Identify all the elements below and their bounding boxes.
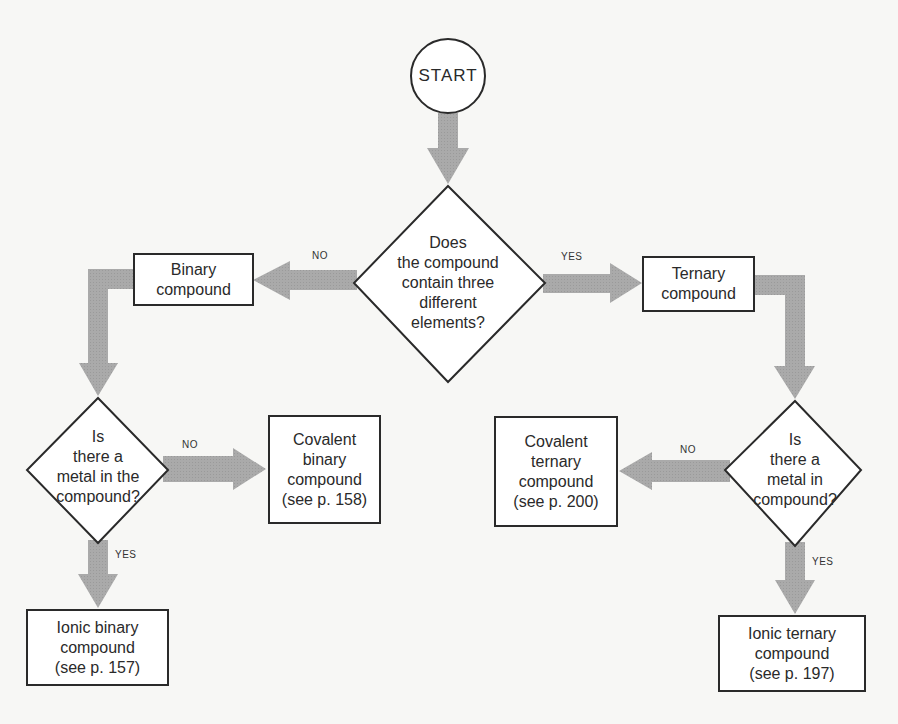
decision-text-line: Does: [429, 233, 466, 253]
edge-label-yes-main: YES: [561, 251, 583, 262]
decision-text-line: compound?: [753, 490, 837, 510]
arrow-yes-to-ionic-binary: [78, 540, 118, 608]
ternary-compound-node: Ternary compound: [642, 256, 755, 312]
flowchart-canvas: START Does the compound contain three di…: [0, 0, 898, 724]
start-node: START: [411, 56, 485, 96]
node-text-line: compound: [60, 638, 135, 658]
node-text-line: binary: [303, 450, 347, 470]
ionic-binary-node: Ionic binary compound (see p. 157): [26, 609, 169, 686]
arrow-no-to-covalent-ternary: [619, 452, 730, 490]
node-text-line: Ternary: [672, 264, 725, 284]
node-text-line: compound: [755, 644, 830, 664]
decision-text-line: the compound: [397, 253, 498, 273]
ionic-ternary-node: Ionic ternary compound (see p. 197): [718, 615, 866, 692]
decision-three-elements: Does the compound contain three differen…: [368, 228, 528, 338]
node-text-line: Ionic ternary: [748, 624, 836, 644]
start-label: START: [418, 66, 477, 86]
decision-text-line: Is: [92, 427, 104, 447]
edge-label-yes-binary: YES: [115, 549, 137, 560]
decision-text-line: contain three: [402, 273, 495, 293]
decision-text-line: compound?: [56, 487, 140, 507]
decision-text-line: elements?: [411, 313, 485, 333]
arrow-no-to-binary: [253, 261, 357, 300]
node-text-line: ternary: [531, 452, 581, 472]
decision-text-line: metal in the: [57, 467, 140, 487]
arrow-no-to-covalent-binary: [163, 448, 266, 490]
edge-label-no-binary: NO: [182, 439, 198, 450]
decision-text-line: different: [419, 293, 477, 313]
node-text-line: compound: [661, 284, 736, 304]
decision-metal-binary: Is there a metal in the compound?: [30, 425, 166, 509]
arrow-yes-to-ternary: [543, 263, 642, 303]
node-text-line: Ionic binary: [57, 618, 139, 638]
node-text-line: Covalent: [524, 432, 587, 452]
decision-text-line: there a: [770, 450, 820, 470]
node-text-line: compound: [287, 470, 362, 490]
node-text-line: (see p. 200): [513, 492, 598, 512]
node-text-line: compound: [519, 472, 594, 492]
covalent-binary-node: Covalent binary compound (see p. 158): [268, 415, 381, 524]
node-text-line: (see p. 197): [749, 664, 834, 684]
edge-label-no-main: NO: [312, 250, 328, 261]
node-text-line: Covalent: [293, 430, 356, 450]
node-text-line: compound: [156, 280, 231, 300]
arrow-binary-to-metal-question: [79, 269, 133, 396]
arrow-ternary-to-metal-question: [754, 275, 815, 399]
binary-compound-node: Binary compound: [133, 253, 254, 306]
node-text-line: Binary: [171, 260, 216, 280]
edge-label-yes-ternary: YES: [812, 556, 834, 567]
decision-text-line: metal in: [767, 470, 823, 490]
covalent-ternary-node: Covalent ternary compound (see p. 200): [494, 416, 618, 527]
decision-text-line: Is: [789, 430, 801, 450]
arrow-start-to-question: [427, 113, 469, 184]
node-text-line: (see p. 158): [282, 490, 367, 510]
edge-label-no-ternary: NO: [680, 444, 696, 455]
arrow-yes-to-ionic-ternary: [775, 542, 815, 614]
node-text-line: (see p. 157): [55, 658, 140, 678]
decision-metal-ternary: Is there a metal in compound?: [728, 428, 862, 512]
decision-text-line: there a: [73, 447, 123, 467]
